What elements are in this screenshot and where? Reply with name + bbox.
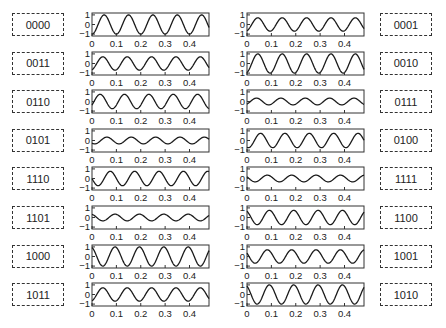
x-tick-label: 0.3 bbox=[314, 270, 327, 281]
waveform-line bbox=[247, 210, 364, 224]
x-tick-label: 0 bbox=[244, 38, 249, 49]
x-tick-label: 0.2 bbox=[289, 308, 302, 319]
x-tick-label: 0 bbox=[244, 115, 249, 126]
waveform-plot-1010: 10−100.10.20.30.4 bbox=[233, 282, 370, 321]
waveform-plot-0111: 10−100.10.20.30.4 bbox=[233, 89, 370, 128]
x-tick-label: 0.3 bbox=[314, 192, 327, 203]
waveform-plot-1111: 10−100.10.20.30.4 bbox=[233, 166, 370, 205]
x-tick-label: 0.4 bbox=[183, 308, 196, 319]
x-tick-label: 0.4 bbox=[183, 192, 196, 203]
x-tick-label: 0.3 bbox=[159, 270, 172, 281]
symbol-label-0010: 0010 bbox=[380, 52, 432, 75]
waveform-line bbox=[92, 172, 209, 186]
x-tick-label: 0.3 bbox=[159, 38, 172, 49]
x-tick-label: 0.3 bbox=[159, 231, 172, 242]
x-tick-label: 0.4 bbox=[338, 154, 351, 165]
waveform-plot-1011: 10−100.10.20.30.4 bbox=[78, 282, 215, 321]
waveform-line bbox=[247, 249, 364, 262]
waveform-line bbox=[92, 56, 209, 69]
waveform-line bbox=[92, 15, 209, 34]
x-tick-label: 0.2 bbox=[134, 231, 147, 242]
x-tick-label: 0.1 bbox=[265, 308, 278, 319]
x-tick-label: 0 bbox=[89, 154, 94, 165]
x-tick-label: 0.3 bbox=[159, 77, 172, 88]
waveform-plot-0100: 10−100.10.20.30.4 bbox=[233, 128, 370, 167]
x-tick-label: 0 bbox=[89, 231, 94, 242]
x-tick-label: 0 bbox=[89, 308, 94, 319]
x-tick-label: 0.1 bbox=[110, 77, 123, 88]
waveform-line bbox=[92, 95, 209, 109]
x-tick-label: 0.3 bbox=[159, 115, 172, 126]
symbol-label-1011: 1011 bbox=[12, 283, 64, 306]
x-tick-label: 0.3 bbox=[159, 308, 172, 319]
x-tick-label: 0.2 bbox=[134, 308, 147, 319]
symbol-label-0110: 0110 bbox=[12, 90, 64, 113]
x-tick-label: 0.1 bbox=[265, 77, 278, 88]
x-tick-label: 0.2 bbox=[134, 270, 147, 281]
x-tick-label: 0.1 bbox=[265, 115, 278, 126]
axes-frame bbox=[247, 90, 364, 113]
waveform-plot-0010: 10−100.10.20.30.4 bbox=[233, 51, 370, 90]
x-tick-label: 0.4 bbox=[338, 38, 351, 49]
symbol-label-1001: 1001 bbox=[380, 245, 432, 268]
symbol-label-0111: 0111 bbox=[380, 90, 432, 113]
waveform-line bbox=[92, 247, 209, 266]
waveform-line bbox=[247, 18, 364, 31]
x-tick-label: 0.3 bbox=[159, 154, 172, 165]
x-tick-label: 0.4 bbox=[183, 77, 196, 88]
x-tick-label: 0.4 bbox=[338, 231, 351, 242]
x-tick-label: 0.2 bbox=[134, 192, 147, 203]
x-tick-label: 0.4 bbox=[338, 77, 351, 88]
x-tick-label: 0.1 bbox=[110, 115, 123, 126]
symbol-label-0001: 0001 bbox=[380, 13, 432, 36]
x-tick-label: 0 bbox=[89, 38, 94, 49]
symbol-label-0000: 0000 bbox=[12, 13, 64, 36]
x-tick-label: 0.1 bbox=[265, 270, 278, 281]
x-tick-label: 0.1 bbox=[265, 231, 278, 242]
waveform-plot-1101: 10−100.10.20.30.4 bbox=[78, 205, 215, 244]
symbol-label-1010: 1010 bbox=[380, 283, 432, 306]
waveform-plot-0101: 10−100.10.20.30.4 bbox=[78, 128, 215, 167]
x-tick-label: 0.2 bbox=[134, 115, 147, 126]
waveform-plot-0001: 10−100.10.20.30.4 bbox=[233, 12, 370, 51]
x-tick-label: 0.3 bbox=[314, 154, 327, 165]
x-tick-label: 0.1 bbox=[265, 154, 278, 165]
x-tick-label: 0.2 bbox=[289, 115, 302, 126]
x-tick-label: 0.2 bbox=[134, 154, 147, 165]
waveform-line bbox=[92, 137, 209, 144]
symbol-label-1000: 1000 bbox=[12, 245, 64, 268]
x-tick-label: 0.2 bbox=[134, 38, 147, 49]
x-tick-label: 0.1 bbox=[110, 231, 123, 242]
x-tick-label: 0.4 bbox=[338, 308, 351, 319]
symbol-label-0011: 0011 bbox=[12, 52, 64, 75]
x-tick-label: 0.3 bbox=[314, 115, 327, 126]
x-tick-label: 0.2 bbox=[289, 154, 302, 165]
x-tick-label: 0.2 bbox=[289, 231, 302, 242]
waveform-plot-0110: 10−100.10.20.30.4 bbox=[78, 89, 215, 128]
waveform-line bbox=[247, 98, 364, 105]
x-tick-label: 0 bbox=[89, 270, 94, 281]
x-tick-label: 0.4 bbox=[338, 115, 351, 126]
waveform-line bbox=[247, 54, 364, 73]
x-tick-label: 0 bbox=[244, 231, 249, 242]
x-tick-label: 0 bbox=[89, 115, 94, 126]
waveform-line bbox=[247, 176, 364, 183]
axes-frame bbox=[247, 283, 364, 306]
waveform-line bbox=[92, 214, 209, 221]
x-tick-label: 0.3 bbox=[314, 38, 327, 49]
x-tick-label: 0 bbox=[244, 192, 249, 203]
x-tick-label: 0.4 bbox=[183, 115, 196, 126]
x-tick-label: 0.1 bbox=[110, 192, 123, 203]
x-tick-label: 0.4 bbox=[183, 154, 196, 165]
x-tick-label: 0.2 bbox=[289, 270, 302, 281]
axes-frame bbox=[247, 129, 364, 152]
x-tick-label: 0.3 bbox=[314, 231, 327, 242]
x-tick-label: 0 bbox=[244, 308, 249, 319]
x-tick-label: 0.4 bbox=[338, 270, 351, 281]
x-tick-label: 0.4 bbox=[183, 38, 196, 49]
waveform-plot-1110: 10−100.10.20.30.4 bbox=[78, 166, 215, 205]
x-tick-label: 0.4 bbox=[183, 231, 196, 242]
axes-frame bbox=[92, 167, 209, 190]
waveform-line bbox=[92, 288, 209, 301]
waveform-plot-1000: 10−100.10.20.30.4 bbox=[78, 244, 215, 283]
